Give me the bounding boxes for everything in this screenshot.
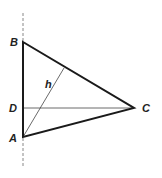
altitude-h [23,68,64,137]
triangle-diagram: B D A C h [0,0,162,178]
triangle-ABC [23,42,134,137]
label-B: B [10,36,18,48]
label-D: D [9,102,17,114]
label-A: A [8,132,17,144]
label-h: h [45,78,52,90]
label-C: C [142,102,151,114]
